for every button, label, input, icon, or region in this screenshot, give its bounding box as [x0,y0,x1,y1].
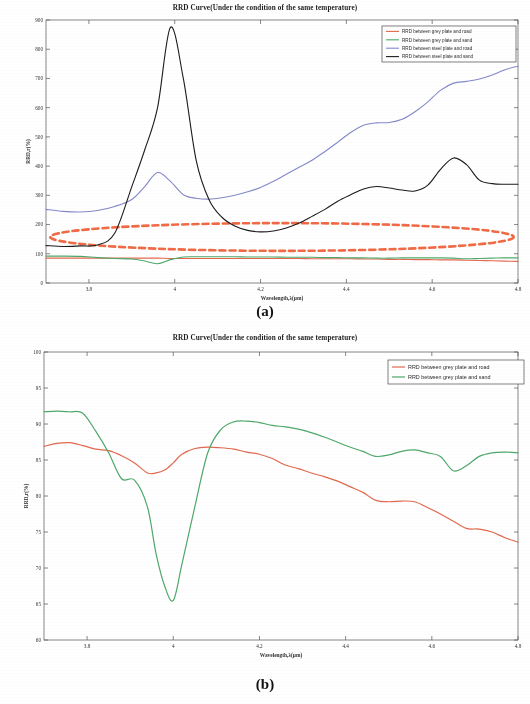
chart-a-title: RRD Curve(Under the condition of the sam… [0,4,530,12]
chart-b-plot: 3.844.24.44.64.86065707580859095100Wavel… [0,342,530,680]
x-tick-label: 4.4 [343,286,350,292]
x-tick-label: 4.2 [256,643,263,649]
x-tick-label: 4.2 [257,286,264,292]
legend-label-0: RRD between grey plate and road [408,364,490,370]
x-tick-label: 4.6 [429,286,436,292]
y-tick-label: 400 [35,163,43,169]
legend-label-3: RRD between steel plate and sand [402,54,473,59]
y-tick-label: 90 [36,421,42,427]
y-tick-label: 700 [35,75,43,81]
chart-b-svg: 3.844.24.44.64.86065707580859095100Wavel… [0,342,530,680]
legend-label-1: RRD between grey plate and sand [402,38,473,43]
x-tick-label: 3.8 [84,643,91,649]
chart-b-title: RRD Curve(Under the condition of the sam… [0,334,530,342]
chart-a-plot: 3.844.24.44.64.8010020030040050060070080… [0,12,530,307]
y-tick-label: 60 [36,637,42,643]
y-axis-label: RRD,r(%) [23,484,30,509]
y-tick-label: 100 [35,251,43,257]
legend-label-1: RRD between grey plate and sand [408,374,490,380]
y-axis-label: RRD,r(%) [25,139,32,164]
y-tick-label: 80 [36,493,42,499]
y-tick-label: 500 [35,134,43,140]
plot-frame [44,352,518,640]
figure-b: RRD Curve(Under the condition of the sam… [0,330,530,704]
y-tick-label: 900 [35,17,43,23]
y-tick-label: 200 [35,221,43,227]
subfigure-b-label: (b) [0,676,530,693]
x-tick-label: 4 [173,286,176,292]
x-tick-label: 4 [172,643,175,649]
chart-a-svg: 3.844.24.44.64.8010020030040050060070080… [0,12,530,307]
y-tick-label: 0 [40,280,43,286]
y-tick-label: 300 [35,192,43,198]
x-tick-label: 4.8 [515,286,522,292]
y-tick-label: 65 [36,601,42,607]
legend-label-2: RRD between steel plate and road [402,46,473,51]
x-axis-label: Wavelength,λ(μm) [260,652,303,659]
y-tick-label: 800 [35,46,43,52]
y-tick-label: 600 [35,105,43,111]
y-tick-label: 95 [36,385,42,391]
x-tick-label: 4.4 [342,643,349,649]
x-tick-label: 4.8 [515,643,522,649]
legend-label-0: RRD between grey plate and road [402,29,472,34]
x-axis-label: Wavelength,λ(μm) [261,295,304,302]
y-tick-label: 100 [33,349,41,355]
y-tick-label: 85 [36,457,42,463]
x-tick-label: 4.6 [429,643,436,649]
y-tick-label: 70 [36,565,42,571]
x-tick-label: 3.8 [86,286,93,292]
subfigure-a-label: (a) [0,303,530,320]
y-tick-label: 75 [36,529,42,535]
figure-a: RRD Curve(Under the condition of the sam… [0,0,530,330]
